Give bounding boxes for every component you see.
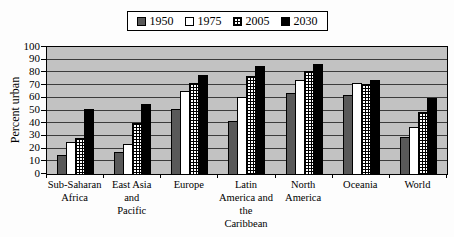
x-category-label-line: World (389, 178, 446, 191)
x-category-label-line: Europe (160, 178, 217, 191)
legend-swatch-1950 (137, 17, 146, 26)
x-category-label-line: Pacific (103, 204, 160, 217)
legend-label-2005: 2005 (246, 14, 270, 28)
bar-2030-latin-america-and-the-caribbean (255, 66, 265, 174)
x-category-label-line: Oceania (332, 178, 389, 191)
bar-group-1 (47, 47, 104, 174)
x-category-label-line: Caribbean (217, 217, 274, 230)
x-category-label-line: Latin (217, 178, 274, 191)
y-tick-label-10: 10 (8, 155, 40, 166)
x-category-label-line: Africa (46, 191, 103, 204)
y-tick-label-60: 60 (8, 91, 40, 102)
y-tick-label-0: 0 (8, 168, 40, 179)
x-category-label-line: East Asia (103, 178, 160, 191)
legend-item-2030: 2030 (281, 14, 318, 28)
y-tick-label-50: 50 (8, 104, 40, 115)
x-category-label-7: World (389, 178, 446, 230)
y-tick-label-30: 30 (8, 129, 40, 140)
bar-2030-north-america (313, 64, 323, 174)
x-category-label-line: North (275, 178, 332, 191)
legend-swatch-2005 (233, 17, 242, 26)
bar-group-3 (161, 47, 218, 174)
bar-group-5 (276, 47, 333, 174)
legend-swatch-2030 (281, 17, 290, 26)
y-tick-label-70: 70 (8, 79, 40, 90)
y-tick-label-100: 100 (8, 41, 40, 52)
y-tick-label-20: 20 (8, 142, 40, 153)
chart-legend: 1950197520052030 (0, 11, 454, 31)
bar-2030-sub-saharan-africa (84, 109, 94, 174)
bar-2030-europe (198, 75, 208, 174)
x-category-label-line: the (217, 204, 274, 217)
bar-2030-oceania (370, 80, 380, 174)
bar-group-4 (218, 47, 275, 174)
plot-area (46, 46, 448, 175)
legend-item-1950: 1950 (137, 14, 174, 28)
y-tick-label-40: 40 (8, 117, 40, 128)
urban-percent-bar-chart: 1950197520052030 Percent urban 010203040… (0, 0, 454, 237)
bar-group-6 (333, 47, 390, 174)
x-category-label-line: Sub-Saharan (46, 178, 103, 191)
x-category-label-6: Oceania (332, 178, 389, 230)
legend-label-1950: 1950 (150, 14, 174, 28)
y-tick-label-80: 80 (8, 66, 40, 77)
legend-swatch-1975 (185, 17, 194, 26)
bar-2030-east-asia-and-pacific (141, 104, 151, 174)
x-category-label-5: NorthAmerica (275, 178, 332, 230)
bar-group-7 (390, 47, 447, 174)
x-category-label-1: Sub-SaharanAfrica (46, 178, 103, 230)
x-category-label-2: East AsiaandPacific (103, 178, 160, 230)
bar-2030-world (427, 98, 437, 174)
legend-label-2030: 2030 (294, 14, 318, 28)
legend-item-1975: 1975 (185, 14, 222, 28)
x-category-label-4: LatinAmerica andtheCaribbean (217, 178, 274, 230)
bar-group-2 (104, 47, 161, 174)
legend-label-1975: 1975 (198, 14, 222, 28)
chart-legend-box: 1950197520052030 (127, 11, 328, 31)
x-axis-category-labels: Sub-SaharanAfricaEast AsiaandPacificEuro… (46, 178, 446, 230)
x-category-label-line: and (103, 191, 160, 204)
bar-groups (47, 47, 447, 174)
x-category-label-line: America and (217, 191, 274, 204)
legend-item-2005: 2005 (233, 14, 270, 28)
y-tick-label-90: 90 (8, 53, 40, 64)
x-category-label-3: Europe (160, 178, 217, 230)
x-category-label-line: America (275, 191, 332, 204)
